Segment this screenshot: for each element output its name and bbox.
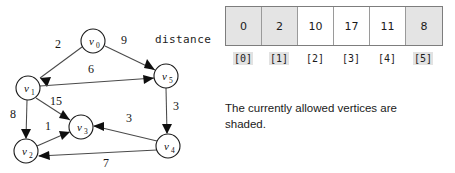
distance-cell-0[interactable]: 0 [226,7,262,45]
index-label-2-text: [2] [305,52,325,65]
node-v1[interactable]: v 1 [16,76,40,100]
edge-weight-v1-v2: 8 [10,107,16,121]
edge-v4-v2 [39,150,157,156]
index-label-1: [1] [261,50,297,67]
arrowhead-v1-v3 [59,110,70,120]
distance-cell-2[interactable]: 10 [298,7,334,45]
index-label-1-text: [1] [269,52,289,65]
index-label-2: [2] [297,50,333,67]
graph-edges [21,46,172,160]
index-label-5: [5] [405,50,441,67]
node-v0-label: v [89,35,94,47]
index-label-5-text: [5] [413,52,433,65]
arrowhead-v2-v3 [59,131,70,140]
arrowhead-v4-v2 [38,151,50,160]
node-v2[interactable]: v 2 [14,139,38,163]
edge-weight-v1-v5: 6 [88,62,94,76]
edge-weight-v0-v1: 2 [55,37,61,51]
distance-cell-1[interactable]: 2 [262,7,298,45]
index-label-0: [0] [225,50,261,67]
node-v1-label: v [24,82,29,94]
arrowhead-v0-v5 [144,59,155,70]
edge-weight-v0-v5: 9 [121,33,127,47]
arrowhead-v1-v2 [21,129,31,139]
distance-array-cells: 0 2 10 17 11 8 [225,6,443,46]
distance-array-panel: distance 0 2 10 17 11 8 [0] [1] [2] [3] … [155,0,455,173]
edge-v1-v5 [40,78,154,86]
node-v0-subscript: 0 [96,41,100,50]
distance-cell-5[interactable]: 8 [406,7,442,45]
distance-cell-4[interactable]: 11 [370,7,406,45]
node-v2-subscript: 2 [29,151,33,160]
arrowhead-v4-v3 [93,122,104,131]
edge-weight-v4-v2: 7 [103,156,109,170]
distance-array-indices: [0] [1] [2] [3] [4] [5] [225,50,441,67]
node-v3-subscript: 3 [84,127,88,136]
index-label-0-text: [0] [233,52,253,65]
edge-v0-v1 [40,47,82,78]
index-label-4-text: [4] [377,52,397,65]
node-v0[interactable]: v 0 [81,29,105,53]
node-v3-label: v [77,121,82,133]
index-label-3: [3] [333,50,369,67]
arrowhead-v1-v5 [143,75,154,84]
edge-weight-v2-v3: 1 [45,119,51,133]
distance-cell-3[interactable]: 17 [334,7,370,45]
figure-caption: The currently allowed vertices are shade… [225,100,415,132]
edge-weight-v4-v3: 3 [126,111,132,125]
index-label-3-text: [3] [341,52,361,65]
node-v1-subscript: 1 [31,88,35,97]
edge-weight-v1-v3: 15 [50,94,62,108]
node-v3[interactable]: v 3 [69,115,93,139]
index-label-4: [4] [369,50,405,67]
node-v2-label: v [22,145,27,157]
distance-array-label: distance [155,33,211,46]
figure-root: 2 9 6 15 8 1 3 3 7 v 0 v [0,0,455,173]
